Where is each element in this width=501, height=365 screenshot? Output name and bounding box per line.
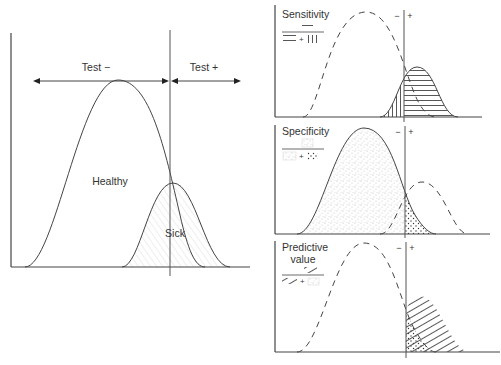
sensitivity-panel: − + Sensitivity + [275,5,482,122]
healthy-label: Healthy [92,175,128,187]
predictive-value-formula: + [282,267,324,286]
minus-mark: − [394,11,399,21]
panel-title: Sensitivity [282,8,330,20]
test-positive-label: Test + [190,61,218,73]
minus-mark: − [396,243,401,253]
test-negative-label: Test − [82,61,110,73]
numerator-swatch [302,139,313,147]
denominator-swatch-b [307,152,318,160]
denominator-swatch-b [308,278,319,285]
specificity-panel: − + Specificity + [275,125,490,238]
panel-title-line2: value [290,253,315,265]
denominator-swatch-a [282,278,297,284]
plus-sign: + [299,35,304,44]
arrowhead-right-icon [162,78,169,84]
sensitivity-formula: + [282,22,324,44]
sick-label: Sick [165,227,186,239]
arrowhead-left-icon [33,78,40,84]
minus-mark: − [395,127,400,137]
diagram-canvas: Test − Test + Healthy Sick − + Sensitivi… [0,0,501,365]
arrowhead-right-icon [234,78,241,84]
predictive-value-panel: − + Predictive value + [275,241,500,358]
main-figure: Test − Test + Healthy Sick [11,30,250,276]
plus-mark: + [407,11,412,21]
denominator-swatch-a [283,35,296,43]
plus-mark: + [408,127,413,137]
panel-title: Specificity [282,125,330,137]
panel-title: Predictive [282,241,328,253]
arrowhead-left-icon [171,78,178,84]
plus-mark: + [409,243,414,253]
specificity-formula: + [282,139,324,161]
plus-sign: + [300,277,305,286]
numerator-swatch [304,267,317,273]
denominator-swatch-b [307,35,317,43]
numerator-swatch [302,22,313,30]
plus-sign: + [299,152,304,161]
denominator-swatch-a [283,152,296,160]
true-positive-fill [380,296,470,352]
